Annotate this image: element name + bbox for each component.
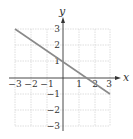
y-tick: 2 xyxy=(54,40,60,50)
x-axis-label: x xyxy=(123,71,130,84)
x-tick: −3 xyxy=(8,79,22,89)
x-axis-arrow-icon xyxy=(115,76,121,80)
y-tick: 3 xyxy=(54,24,60,34)
x-tick: −2 xyxy=(24,79,37,89)
coordinate-plane: x y −3 −2 −1 1 2 3 3 2 1 −1 −2 −3 xyxy=(0,0,133,139)
y-tick-labels: 3 2 1 −1 −2 −3 xyxy=(47,24,61,131)
y-tick: −2 xyxy=(47,105,60,115)
y-tick: −3 xyxy=(47,121,61,131)
x-tick: 3 xyxy=(106,79,112,89)
x-tick: −1 xyxy=(40,79,53,89)
y-axis-label: y xyxy=(58,5,66,18)
x-tick: 1 xyxy=(76,79,82,89)
y-tick: −1 xyxy=(47,89,60,99)
grid xyxy=(15,29,110,126)
